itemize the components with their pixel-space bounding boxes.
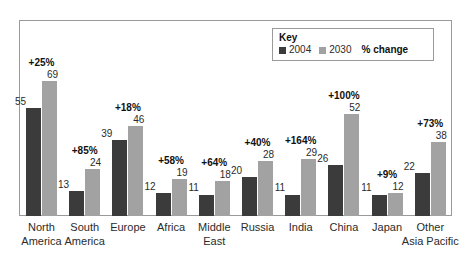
bar-2004 (372, 195, 387, 217)
x-axis-label-line: East (182, 234, 246, 248)
value-label-2004: 12 (140, 182, 156, 192)
bar-2004 (199, 195, 214, 217)
pct-change-label: +73% (401, 119, 460, 129)
bar-2004 (415, 173, 430, 216)
bar-2004 (69, 191, 84, 216)
pct-change-label: +85% (55, 146, 114, 156)
bar-2030 (85, 169, 100, 216)
value-label-2004: 13 (53, 180, 69, 190)
legend-swatch-2004 (279, 47, 286, 54)
bar-2030 (431, 142, 446, 216)
value-label-2030: 52 (344, 103, 360, 113)
x-axis-label-line: America (53, 234, 117, 248)
chart-page: 5569+25%1324+85%3946+18%1219+58%1118+64%… (0, 0, 465, 265)
legend-label-2030: 2030 (329, 45, 351, 55)
bar-2030 (388, 193, 403, 216)
bar-2004 (242, 177, 257, 216)
value-label-2004: 11 (269, 183, 285, 193)
value-label-2004: 22 (399, 162, 415, 172)
bar-group (69, 20, 100, 216)
x-axis-label: OtherAsia Pacific (398, 220, 462, 248)
x-axis-label-line: Other (398, 220, 462, 234)
pct-change-label: +25% (12, 58, 71, 68)
value-label-2030: 19 (172, 168, 188, 178)
value-label-2030: 38 (431, 131, 447, 141)
legend-swatch-2030 (319, 47, 326, 54)
pct-change-label: +100% (314, 91, 373, 101)
bar-2004 (285, 195, 300, 217)
x-axis-labels: NorthAmericaSouthAmericaEuropeAfricaMidd… (19, 220, 452, 262)
pct-change-label: +164% (271, 136, 330, 146)
bar-2030 (344, 114, 359, 216)
value-label-2030: 69 (42, 70, 58, 80)
pct-change-label: +18% (98, 103, 157, 113)
legend-label-2004: 2004 (289, 45, 311, 55)
legend-entries: 2004 2030 % change (279, 45, 433, 55)
bar-2030 (128, 126, 143, 216)
bar-2004 (112, 140, 127, 216)
value-label-2004: 11 (183, 183, 199, 193)
value-label-2004: 39 (96, 129, 112, 139)
x-axis-label-line: Asia Pacific (398, 234, 462, 248)
value-label-2030: 24 (85, 158, 101, 168)
value-label-2030: 46 (128, 115, 144, 125)
bar-2004 (156, 193, 171, 216)
legend-label-pct-change: % change (362, 45, 409, 55)
bar-2030 (215, 181, 230, 216)
bar-2004 (26, 108, 41, 216)
bar-2030 (301, 159, 316, 216)
bar-group (199, 20, 230, 216)
bar-2004 (328, 165, 343, 216)
value-label-2004: 55 (10, 97, 26, 107)
chart-legend: Key 2004 2030 % change (272, 28, 434, 61)
value-label-2030: 28 (258, 150, 274, 160)
value-label-2004: 26 (312, 154, 328, 164)
value-label-2004: 11 (356, 183, 372, 193)
legend-title: Key (279, 32, 433, 43)
value-label-2004: 20 (226, 166, 242, 176)
value-label-2030: 12 (388, 182, 404, 192)
